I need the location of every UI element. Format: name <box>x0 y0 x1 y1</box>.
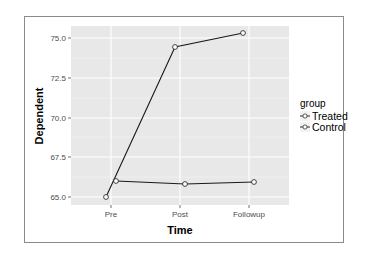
x-axis-ticks <box>111 205 249 208</box>
x-tick-followup: Followup <box>233 210 266 219</box>
y-tick-65: 65.0 <box>50 193 66 202</box>
x-axis-title: Time <box>167 224 192 236</box>
data-point <box>104 195 109 200</box>
legend-marker-treated <box>303 114 307 118</box>
y-axis-title: Dependent <box>33 87 45 144</box>
legend-label-control: Control <box>312 121 346 133</box>
legend-title: group <box>300 98 326 109</box>
y-tick-70: 70.0 <box>50 114 66 123</box>
legend: group Treated Control <box>300 98 348 133</box>
data-point <box>173 45 178 50</box>
x-axis-labels: Pre Post Followup <box>105 210 266 219</box>
y-tick-75: 75.0 <box>50 34 66 43</box>
data-point <box>183 182 188 187</box>
x-tick-post: Post <box>172 210 189 219</box>
y-tick-72-5: 72.5 <box>50 74 66 83</box>
legend-marker-control <box>303 125 307 129</box>
y-axis-ticks <box>68 38 71 197</box>
y-axis-labels: 75.0 72.5 70.0 67.5 65.0 <box>50 34 66 202</box>
x-tick-pre: Pre <box>105 210 118 219</box>
y-tick-67-5: 67.5 <box>50 153 66 162</box>
data-point <box>241 31 246 36</box>
line-chart: 75.0 72.5 70.0 67.5 65.0 Pre Post Follow… <box>0 0 382 256</box>
data-point <box>252 180 257 185</box>
data-point <box>114 179 119 184</box>
